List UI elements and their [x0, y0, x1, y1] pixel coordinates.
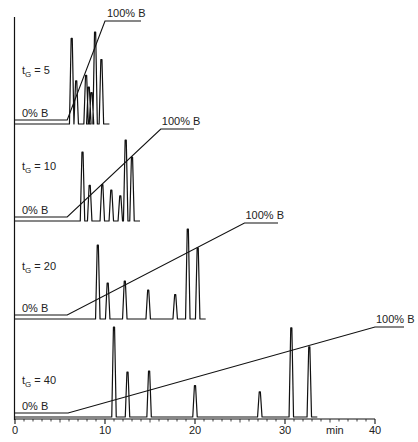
x-tick-label: 20: [189, 424, 201, 436]
gradient-time-label: tG = 40: [22, 374, 56, 389]
x-tick-label: 40: [369, 424, 381, 436]
gradient-time-label: tG = 10: [22, 160, 56, 175]
gradient-time-label: tG = 5: [22, 64, 50, 79]
gradient-start-label: 0% B: [22, 204, 48, 216]
x-tick-label: 10: [99, 424, 111, 436]
panel-tg-5: tG = 50% B100% B: [15, 7, 146, 124]
panel-tg-10: tG = 100% B100% B: [15, 115, 200, 221]
gradient-profile-line: [15, 327, 404, 413]
gradient-end-label: 100% B: [162, 115, 201, 127]
chromatogram-trace: [15, 327, 317, 417]
x-tick-label: 0: [12, 424, 18, 436]
gradient-end-label: 100% B: [246, 209, 285, 221]
gradient-start-label: 0% B: [22, 107, 48, 119]
chromatogram-figure: tG = 50% B100% BtG = 100% B100% BtG = 20…: [0, 0, 418, 442]
panel-tg-40: tG = 400% B100% B: [15, 313, 415, 417]
panel-tg-20: tG = 200% B100% B: [15, 209, 284, 319]
x-tick-label: 30: [279, 424, 291, 436]
x-axis-unit-label: min: [326, 424, 344, 436]
gradient-end-label: 100% B: [376, 313, 415, 325]
gradient-start-label: 0% B: [22, 302, 48, 314]
chromatogram-panels: tG = 50% B100% BtG = 100% B100% BtG = 20…: [15, 7, 415, 417]
gradient-time-label: tG = 20: [22, 260, 56, 275]
gradient-end-label: 100% B: [107, 7, 146, 19]
gradient-start-label: 0% B: [22, 400, 48, 412]
